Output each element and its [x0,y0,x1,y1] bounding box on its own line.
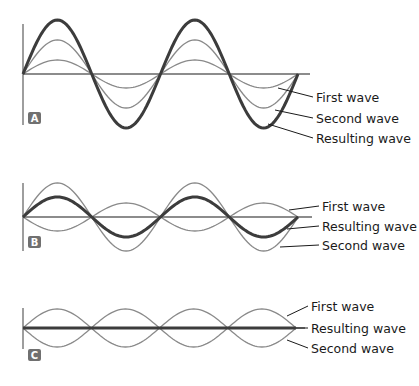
panel-a-constructive: AFirst waveSecond waveResulting wave [23,20,411,146]
wave-label: First wave [322,199,386,214]
panel-badge: C [28,349,41,361]
panel-badge: B [28,236,41,248]
panel-badge: A [28,112,41,124]
wave-label: Second wave [322,238,405,253]
panel-c-destructive: CFirst waveResulting waveSecond wave [23,299,406,362]
panel-badge-letter: C [31,350,38,361]
leader-line [268,124,313,138]
wave-interference-diagram: AFirst waveSecond waveResulting wave BFi… [0,0,419,386]
leader-line [287,340,308,348]
wave-label: Resulting wave [322,219,417,234]
leader-line [289,206,319,210]
panel-b-partial-destructive: BFirst waveResulting waveSecond wave [23,183,417,253]
leader-line [280,245,319,247]
panel-badge-letter: A [31,113,39,124]
wave-label: Resulting wave [316,131,411,146]
wave-label: First wave [311,299,375,314]
wave-label: Second wave [316,111,399,126]
panel-badge-letter: B [31,237,39,248]
wave-label: First wave [316,90,380,105]
wave-label: Resulting wave [311,321,406,336]
leader-line [287,306,308,316]
wave-label: Second wave [311,341,394,356]
